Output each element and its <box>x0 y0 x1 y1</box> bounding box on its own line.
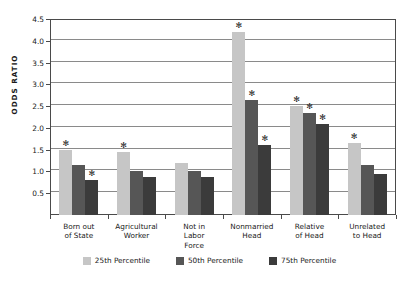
x-axis-category-label: Not inLaborForce <box>165 222 223 250</box>
legend-swatch-icon <box>83 257 91 265</box>
y-axis-tick-label: 3.5 <box>18 58 44 67</box>
y-axis-tick-label: 3.0 <box>18 80 44 89</box>
x-axis-category-label: Unrelatedto Head <box>338 222 396 241</box>
bar <box>361 165 374 215</box>
x-axis-label-line: Relative <box>281 222 339 231</box>
x-axis-tick-mark <box>396 215 397 219</box>
significance-marker: ✻ <box>306 103 313 111</box>
x-axis-label-line: Born out <box>50 222 108 231</box>
significance-marker: ✻ <box>88 170 95 178</box>
x-axis-tick-mark <box>223 215 224 219</box>
x-axis-label-line: Force <box>165 241 223 250</box>
x-axis-label-line: Head <box>223 231 281 240</box>
y-axis-tick-label: 2.0 <box>18 123 44 132</box>
x-axis-label-line: Worker <box>108 231 166 240</box>
significance-marker: ✻ <box>261 135 268 143</box>
x-axis-label-line: of Head <box>281 231 339 240</box>
bar <box>175 163 188 215</box>
legend-label: 50th Percentile <box>188 256 243 265</box>
bar-group: ✻✻✻ <box>232 19 271 215</box>
bar <box>143 177 156 215</box>
significance-marker: ✻ <box>351 133 358 141</box>
x-axis-tick-mark <box>108 215 109 219</box>
chart-legend: 25th Percentile50th Percentile75th Perce… <box>0 256 419 265</box>
bar <box>348 143 361 215</box>
y-axis-tick-label: 1.5 <box>18 145 44 154</box>
legend-label: 75th Percentile <box>281 256 336 265</box>
bar <box>374 174 387 215</box>
significance-marker: ✻ <box>248 90 255 98</box>
legend-item[interactable]: 25th Percentile <box>83 256 150 265</box>
bar <box>188 171 201 215</box>
bar <box>232 32 245 215</box>
x-axis-tick-mark <box>338 215 339 219</box>
significance-marker: ✻ <box>120 142 127 150</box>
x-axis-label-line: Not in <box>165 222 223 231</box>
bar <box>303 113 316 215</box>
x-axis-category-label: AgriculturalWorker <box>108 222 166 241</box>
x-axis-label-line: Labor <box>165 231 223 240</box>
x-axis-label-line: of State <box>50 231 108 240</box>
legend-item[interactable]: 50th Percentile <box>176 256 243 265</box>
significance-marker: ✻ <box>62 140 69 148</box>
bar <box>290 106 303 215</box>
x-axis-label-line: to Head <box>338 231 396 240</box>
bar <box>245 100 258 215</box>
bar-group: ✻ <box>348 19 387 215</box>
y-axis-tick-label: 4.0 <box>18 36 44 45</box>
bar-group: ✻ <box>117 19 156 215</box>
legend-swatch-icon <box>176 257 184 265</box>
bar <box>201 177 214 215</box>
legend-label: 25th Percentile <box>95 256 150 265</box>
bar-groups: ✻✻✻✻✻✻✻✻✻✻ <box>50 19 396 215</box>
significance-marker: ✻ <box>235 22 242 30</box>
y-axis-tick-label: 1.0 <box>18 167 44 176</box>
bar <box>59 150 72 215</box>
x-axis-category-label: NonmarriedHead <box>223 222 281 241</box>
x-axis-label-line: Nonmarried <box>223 222 281 231</box>
bar <box>117 152 130 215</box>
legend-item[interactable]: 75th Percentile <box>269 256 336 265</box>
x-axis-category-label: Born outof State <box>50 222 108 241</box>
legend-swatch-icon <box>269 257 277 265</box>
x-axis-tick-mark <box>281 215 282 219</box>
bar <box>258 145 271 215</box>
bar-group: ✻✻✻ <box>290 19 329 215</box>
x-axis-tick-mark <box>165 215 166 219</box>
bar <box>85 180 98 215</box>
y-axis-tick-label: 4.5 <box>18 15 44 24</box>
x-axis-label-line: Unrelated <box>338 222 396 231</box>
significance-marker: ✻ <box>293 96 300 104</box>
y-axis-tick-label: 0.5 <box>18 189 44 198</box>
x-axis-label-line: Agricultural <box>108 222 166 231</box>
bar <box>72 165 85 215</box>
y-axis-tick-label: 2.5 <box>18 102 44 111</box>
bar <box>316 124 329 215</box>
significance-marker: ✻ <box>319 114 326 122</box>
bar <box>130 171 143 215</box>
odds-ratio-bar-chart: ODDS RATIO 0.51.01.52.02.53.03.54.04.5 ✻… <box>0 0 419 288</box>
bar-group: ✻✻ <box>59 19 98 215</box>
bar-group <box>175 19 214 215</box>
x-axis-tick-mark <box>50 215 51 219</box>
x-axis-category-label: Relativeof Head <box>281 222 339 241</box>
